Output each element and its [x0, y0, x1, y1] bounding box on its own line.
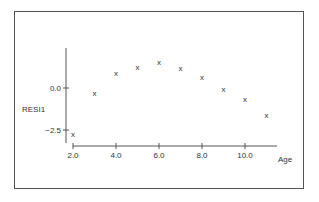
x-tick-label: 2.0: [67, 151, 79, 160]
data-point: x: [243, 95, 247, 104]
scatter-plot: 0.0−2.5 2.04.06.08.010.0 xxxxxxxxxx RESI…: [0, 0, 319, 202]
data-points: xxxxxxxxxx: [71, 58, 269, 139]
data-point: x: [265, 111, 269, 120]
data-point: x: [222, 85, 226, 94]
data-point: x: [114, 69, 118, 78]
data-point: x: [136, 63, 140, 72]
x-tick-label: 8.0: [196, 151, 208, 160]
data-point: x: [71, 130, 75, 139]
y-axis-label: RESI1: [22, 105, 46, 114]
x-axis-label: Age: [278, 155, 293, 164]
y-tick-label: −2.5: [45, 126, 61, 135]
data-point: x: [179, 64, 183, 73]
x-tick-label: 6.0: [153, 151, 165, 160]
data-point: x: [200, 73, 204, 82]
x-tick-label: 4.0: [110, 151, 122, 160]
y-ticks: 0.0−2.5: [45, 84, 69, 135]
y-tick-label: 0.0: [50, 84, 62, 93]
x-tick-label: 10.0: [237, 151, 253, 160]
data-point: x: [93, 89, 97, 98]
data-point: x: [157, 58, 161, 67]
